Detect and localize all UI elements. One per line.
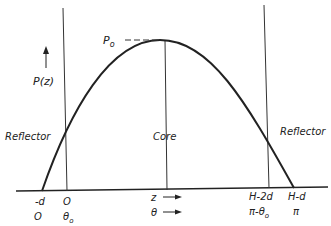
tick-z: z <box>150 192 157 203</box>
theta-tick-zero: O <box>34 211 42 222</box>
right-boundary-line <box>264 5 269 188</box>
center-region-label: Core <box>153 131 176 142</box>
tick-h2d: H-2d <box>249 191 273 202</box>
left-boundary-line <box>63 8 67 191</box>
y-axis-label: P(z) <box>33 75 54 88</box>
core-center-line <box>165 40 167 190</box>
z-arrow-icon <box>175 195 182 200</box>
power-distribution-diagram: P(z) Po Reflector Core Reflector -d O z … <box>0 0 331 226</box>
theta-tick-pi: π <box>293 206 300 217</box>
tick-zero: O <box>63 196 71 207</box>
tick-neg-d: -d <box>35 196 46 207</box>
theta-label: θ <box>151 207 157 218</box>
right-region-label: Reflector <box>280 126 326 137</box>
theta-tick-pi-minus: π-θo <box>249 206 269 220</box>
z-axis-line <box>16 187 328 191</box>
power-curve <box>42 40 294 191</box>
peak-label: Po <box>103 34 115 49</box>
tick-hd: H-d <box>288 191 306 202</box>
y-arrow-icon <box>43 46 49 54</box>
left-region-label: Reflector <box>5 131 51 142</box>
theta-tick-theta0: θo <box>63 211 73 225</box>
theta-arrow-icon <box>175 210 182 215</box>
